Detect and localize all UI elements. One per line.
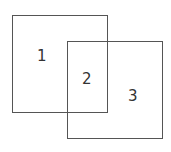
region-label-3: 3 <box>128 89 138 104</box>
region-label-1: 1 <box>37 49 47 64</box>
region-label-2: 2 <box>82 72 92 87</box>
square-right <box>67 41 163 139</box>
